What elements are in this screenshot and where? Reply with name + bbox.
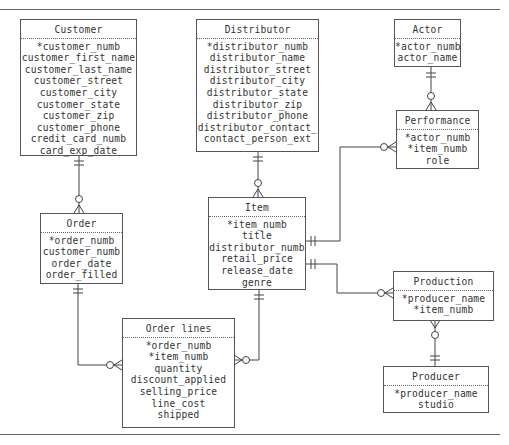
attribute: distributor_state: [197, 87, 318, 99]
attribute: studio: [384, 399, 488, 411]
entity-title: Order: [41, 214, 122, 233]
attribute-list: *order_numb customer_numb order_date ord…: [41, 233, 122, 281]
attribute: customer_last_name: [21, 64, 136, 76]
attribute: *actor_numb: [395, 41, 460, 53]
attribute: order_filled: [41, 269, 122, 281]
relationship-item-production: [305, 259, 393, 298]
entity-performance[interactable]: Performance *actor_numb *item_numb role: [396, 110, 479, 169]
attribute: *producer_name: [394, 293, 493, 305]
attribute: *customer_numb: [21, 41, 136, 53]
attribute-list: *customer_numb customer_first_name custo…: [21, 39, 136, 157]
entity-title: Production: [394, 272, 493, 291]
attribute: actor_name: [395, 52, 460, 64]
entity-title: Item: [209, 198, 305, 217]
attribute-list: *producer_name *item_numb: [394, 291, 493, 316]
entity-producer[interactable]: Producer *producer_name studio: [383, 366, 489, 413]
entity-title: Customer: [21, 20, 136, 39]
attribute: customer_numb: [41, 246, 122, 258]
attribute: shipped: [123, 409, 234, 421]
attribute: *distributor_numb: [197, 41, 318, 53]
entity-order[interactable]: Order *order_numb customer_numb order_da…: [40, 213, 123, 284]
entity-production[interactable]: Production *producer_name *item_numb: [393, 271, 494, 321]
entity-title: Distributor: [197, 20, 318, 39]
attribute: distributor_street: [197, 64, 318, 76]
attribute: customer_phone: [21, 122, 136, 134]
relationship-item-orderlines: [234, 289, 264, 365]
attribute: credit_card_numb: [21, 133, 136, 145]
attribute: *order_numb: [123, 340, 234, 352]
attribute-list: *producer_name studio: [384, 386, 488, 411]
attribute: role: [397, 155, 478, 167]
attribute: customer_state: [21, 99, 136, 111]
attribute: distributor_numb: [209, 242, 305, 254]
attribute: contact_person_ext: [197, 133, 318, 145]
attribute: *actor_numb: [397, 132, 478, 144]
attribute-list: *order_numb *item_numb quantity discount…: [123, 338, 234, 421]
attribute: customer_city: [21, 87, 136, 99]
attribute: card_exp_date: [21, 145, 136, 157]
attribute: *item_numb: [397, 143, 478, 155]
attribute: genre: [209, 277, 305, 289]
attribute: customer_zip: [21, 110, 136, 122]
entity-item[interactable]: Item *item_numb title distributor_numb r…: [208, 197, 306, 290]
attribute: customer_first_name: [21, 52, 136, 64]
attribute: distributor_contact_: [197, 122, 318, 134]
attribute: *item_numb: [209, 219, 305, 231]
relationship-actor-performance: [426, 66, 436, 110]
entity-actor[interactable]: Actor *actor_numb actor_name: [394, 19, 461, 67]
attribute: discount_applied: [123, 374, 234, 386]
entity-title: Producer: [384, 367, 488, 386]
attribute: distributor_city: [197, 75, 318, 87]
relationship-order-orderlines: [73, 283, 122, 370]
attribute: retail_price: [209, 253, 305, 265]
attribute: order_date: [41, 258, 122, 270]
attribute: title: [209, 230, 305, 242]
relationship-item-performance: [305, 142, 396, 246]
entity-distributor[interactable]: Distributor *distributor_numb distributo…: [196, 19, 319, 152]
attribute: distributor_zip: [197, 99, 318, 111]
entity-order-lines[interactable]: Order lines *order_numb *item_numb quant…: [122, 318, 235, 428]
attribute: *item_numb: [123, 351, 234, 363]
attribute: *item_numb: [394, 304, 493, 316]
entity-title: Actor: [395, 20, 460, 39]
attribute: quantity: [123, 363, 234, 375]
attribute: distributor_phone: [197, 110, 318, 122]
relationship-distributor-item: [253, 151, 263, 197]
attribute: *producer_name: [384, 388, 488, 400]
attribute: line_cost: [123, 398, 234, 410]
attribute-list: *actor_numb actor_name: [395, 39, 460, 64]
relationship-customer-order: [74, 155, 84, 213]
attribute: customer_street: [21, 75, 136, 87]
attribute: selling_price: [123, 386, 234, 398]
attribute-list: *distributor_numb distributor_name distr…: [197, 39, 318, 145]
attribute: release_date: [209, 265, 305, 277]
attribute: *order_numb: [41, 235, 122, 247]
entity-customer[interactable]: Customer *customer_numb customer_first_n…: [20, 19, 137, 156]
entity-title: Order lines: [123, 319, 234, 338]
attribute-list: *actor_numb *item_numb role: [397, 130, 478, 167]
attribute: distributor_name: [197, 52, 318, 64]
entity-title: Performance: [397, 111, 478, 130]
relationship-producer-production: [430, 320, 440, 366]
attribute-list: *item_numb title distributor_numb retail…: [209, 217, 305, 289]
